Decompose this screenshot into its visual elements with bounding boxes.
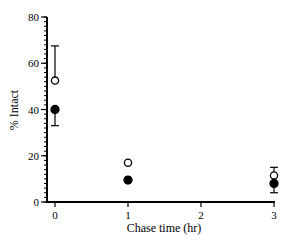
y-tick-label: 20: [28, 150, 40, 162]
y-tick-label: 60: [28, 57, 40, 69]
axes: [47, 17, 275, 203]
ticks: 0204060800123: [28, 11, 277, 221]
y-tick-label: 80: [28, 11, 40, 23]
y-axis-title: % Intact: [7, 89, 21, 130]
open-circle-marker: [124, 159, 131, 166]
x-tick-label: 3: [271, 209, 277, 221]
x-tick-label: 2: [198, 209, 204, 221]
open-circle-marker: [270, 172, 277, 179]
chart: 0204060800123 Chase time (hr) % Intact: [0, 0, 289, 247]
filled-circle-marker: [270, 180, 278, 188]
y-tick-label: 40: [28, 104, 40, 116]
x-tick-label: 0: [52, 209, 58, 221]
x-tick-label: 1: [125, 209, 131, 221]
filled-circle-marker: [51, 106, 59, 114]
data-points: [51, 46, 278, 193]
filled-circle-marker: [124, 176, 132, 184]
x-axis-title: Chase time (hr): [127, 221, 202, 235]
y-tick-label: 0: [34, 196, 40, 208]
open-circle-marker: [51, 77, 58, 84]
